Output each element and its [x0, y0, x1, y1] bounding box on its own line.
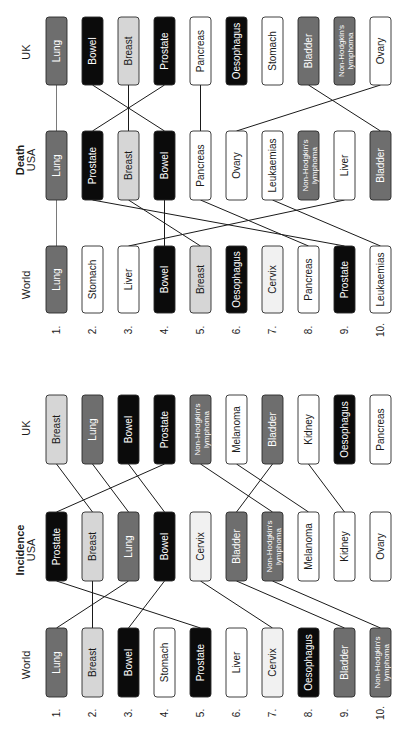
incidence-usa-rank-box: Kidney: [334, 512, 355, 581]
cancer-type-label: Bladder: [303, 33, 314, 68]
cancer-type-label: Liver: [339, 154, 350, 176]
cancer-type-label: Breast: [195, 265, 206, 294]
incidence-uk-rank-box: Pancreas: [370, 395, 391, 464]
death-uk-rank-box: Bowel: [82, 17, 103, 85]
incidence-usa-world-connector: [57, 581, 201, 628]
cancer-type-label: Non-Hodgkin'slymphoma: [337, 25, 355, 77]
cancer-type-label: Pancreas: [303, 258, 314, 300]
incidence-usa-world-connector: [273, 581, 381, 628]
death-usa-world-connector: [273, 200, 381, 246]
cancer-type-label: Non-Hodgkin'slymphoma: [301, 139, 319, 191]
incidence-usa-rank-box: Breast: [82, 512, 103, 581]
cancer-type-label: Kidney: [339, 531, 350, 562]
cancer-type-label: Breast: [87, 532, 98, 561]
death-world-rank-box: Breast: [190, 246, 211, 313]
incidence-uk-rank-box: Lung: [82, 395, 103, 464]
death-column-title: UK: [20, 44, 32, 60]
incidence-usa-rank-box: Lung: [118, 512, 139, 581]
cancer-type-label: Melanoma: [303, 523, 314, 570]
cancer-type-label: Breast: [87, 648, 98, 677]
death-usa-rank-box: Leukaemias: [262, 131, 283, 200]
death-uk-usa-connector: [237, 85, 381, 131]
cancer-type-label: Bladder: [375, 148, 386, 183]
cancer-type-label: Bladder: [231, 529, 242, 564]
rank-number: 8.: [303, 709, 314, 717]
cancer-type-label: Prostate: [195, 643, 206, 681]
death-uk-usa-connector: [309, 85, 381, 131]
cancer-type-label: Melanoma: [231, 406, 242, 453]
death-usa-rank-box: Non-Hodgkin'slymphoma: [298, 131, 319, 200]
incidence-uk-usa-connector: [129, 464, 165, 512]
cancer-type-label: Lung: [51, 40, 62, 62]
cancer-type-label: Cervix: [267, 648, 278, 676]
incidence-uk-usa-connector: [309, 464, 345, 512]
rank-number: 2.: [87, 326, 98, 334]
death-usa-world-connector: [93, 200, 345, 246]
rank-number: 1.: [51, 709, 62, 717]
cancer-type-label: Pancreas: [195, 144, 206, 186]
incidence-usa-rank-box: Prostate: [46, 512, 67, 581]
death-uk-rank-box: Breast: [118, 17, 139, 85]
cancer-type-label: Pancreas: [195, 30, 206, 72]
cancer-type-label: Breast: [51, 415, 62, 444]
incidence-usa-rank-box: Ovary: [370, 512, 391, 581]
cancer-type-label: Lung: [123, 535, 134, 557]
rank-number: 3.: [123, 326, 134, 334]
incidence-world-rank-box: Prostate: [190, 628, 211, 697]
death-world-rank-box: Prostate: [334, 246, 355, 313]
rank-number: 6.: [231, 326, 242, 334]
rank-number: 4.: [159, 326, 170, 334]
death-usa-rank-box: Pancreas: [190, 131, 211, 200]
incidence-usa-rank-box: Bowel: [154, 512, 175, 581]
incidence-world-rank-box: Stomach: [154, 628, 175, 697]
death-world-rank-box: Oesophagus: [226, 246, 247, 313]
death-usa-rank-box: Ovary: [226, 131, 247, 200]
rank-number: 9.: [339, 709, 350, 717]
cancer-type-label: Bowel: [87, 37, 98, 64]
rank-number: 9.: [339, 326, 350, 334]
death-usa-rank-box: Lung: [46, 131, 67, 200]
death-usa-world-connector: [129, 200, 345, 246]
death-uk-rank-box: Non-Hodgkin'slymphoma: [334, 17, 355, 85]
cancer-type-label: Non-Hodgkin'slymphoma: [193, 403, 211, 455]
incidence-usa-rank-box: Melanoma: [298, 512, 319, 581]
incidence-usa-world-connector: [129, 581, 165, 628]
death-uk-rank-box: Pancreas: [190, 17, 211, 85]
incidence-uk-rank-box: Oesophagus: [334, 395, 355, 464]
death-world-rank-box: Liver: [118, 246, 139, 313]
rank-number: 5.: [195, 709, 206, 717]
incidence-uk-rank-box: Non-Hodgkin'slymphoma: [190, 395, 211, 464]
rank-number: 4.: [159, 709, 170, 717]
cancer-type-label: Bowel: [159, 152, 170, 179]
cancer-type-label: Non-Hodgkin'slymphoma: [373, 636, 391, 688]
ranking-diagram-svg: LungBowelBreastProstatePancreasOesophagu…: [0, 0, 406, 739]
incidence-world-rank-box: Non-Hodgkin'slymphoma: [370, 628, 391, 697]
rank-number: 5.: [195, 326, 206, 334]
cancer-type-label: Bowel: [159, 533, 170, 560]
cancer-type-label: Ovary: [231, 152, 242, 179]
rank-number: 7.: [267, 709, 278, 717]
incidence-panel: BreastLungBowelProstateNon-Hodgkin'slymp…: [46, 395, 391, 697]
cancer-type-label: Lung: [87, 418, 98, 440]
death-usa-rank-box: Breast: [118, 131, 139, 200]
death-uk-rank-box: Prostate: [154, 17, 175, 85]
cancer-type-label: Bladder: [267, 412, 278, 447]
incidence-uk-rank-box: Melanoma: [226, 395, 247, 464]
death-uk-rank-box: Ovary: [370, 17, 391, 85]
incidence-uk-rank-box: Bowel: [118, 395, 139, 464]
cancer-type-label: Oesophagus: [231, 251, 242, 308]
death-world-rank-box: Cervix: [262, 246, 283, 313]
incidence-uk-usa-connector: [201, 464, 273, 512]
incidence-world-rank-box: Liver: [226, 628, 247, 697]
incidence-usa-rank-box: Bladder: [226, 512, 247, 581]
rank-number: 3.: [123, 709, 134, 717]
death-column-title: DeathUSA: [14, 144, 37, 175]
cancer-type-label: Bowel: [123, 416, 134, 443]
cancer-type-label: Oesophagus: [231, 23, 242, 80]
incidence-uk-usa-connector: [237, 464, 273, 512]
cancer-type-label: Prostate: [51, 527, 62, 565]
cancer-ranking-diagram: LungBowelBreastProstatePancreasOesophagu…: [0, 0, 406, 739]
incidence-uk-usa-connector: [57, 464, 93, 512]
rank-number: 1.: [51, 326, 62, 334]
incidence-world-rank-box: Oesophagus: [298, 628, 319, 697]
